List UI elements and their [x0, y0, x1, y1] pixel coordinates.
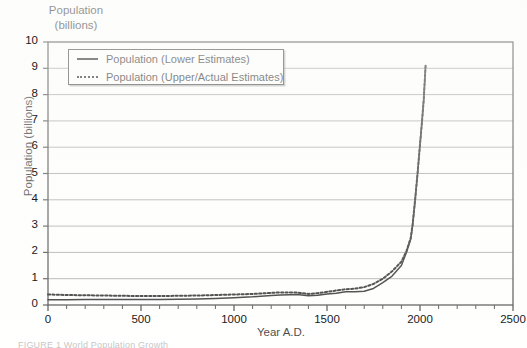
y-tick-label: 2	[12, 244, 38, 256]
y-tick-label: 7	[12, 113, 38, 125]
dotted-line-icon	[76, 71, 100, 83]
x-tick-label: 500	[111, 313, 171, 325]
y-tick-label: 9	[12, 60, 38, 72]
y-tick-label: 3	[12, 218, 38, 230]
legend-item-upper: Population (Upper/Actual Estimates)	[69, 68, 283, 86]
series-line-1	[48, 66, 426, 300]
solid-line-icon	[76, 53, 100, 65]
series-line-2	[48, 66, 426, 296]
x-tick-label: 1000	[204, 313, 264, 325]
y-tick-label: 6	[12, 139, 38, 151]
legend-item-lower: Population (Lower Estimates)	[69, 50, 283, 68]
figure-caption-partial: FIGURE 1 World Population Growth	[18, 340, 348, 348]
figure-world-population-growth: Population (billions) Population (billio…	[0, 0, 527, 348]
y-tick-label: 0	[12, 297, 38, 309]
x-tick-label: 2500	[483, 313, 527, 325]
chart-legend: Population (Lower Estimates) Population …	[68, 49, 284, 85]
legend-label-lower: Population (Lower Estimates)	[106, 53, 250, 65]
y-tick-label: 10	[12, 34, 38, 46]
y-tick-label: 8	[12, 87, 38, 99]
legend-label-upper: Population (Upper/Actual Estimates)	[106, 71, 283, 83]
y-tick-label: 1	[12, 271, 38, 283]
y-tick-label: 4	[12, 192, 38, 204]
x-tick-label: 1500	[297, 313, 357, 325]
x-tick-label: 0	[18, 313, 78, 325]
y-tick-label: 5	[12, 166, 38, 178]
x-tick-label: 2000	[390, 313, 450, 325]
